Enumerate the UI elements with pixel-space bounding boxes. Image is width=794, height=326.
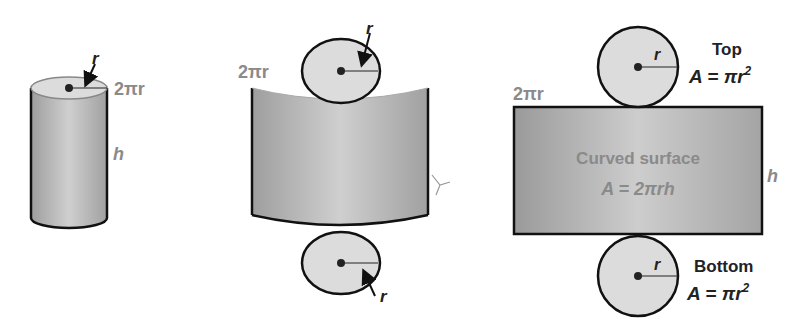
net-top-radius-label: r [654,46,661,63]
cylinder-figure: r 2πr h [31,49,145,228]
cylinder-surface-area-diagram: r 2πr h r 2πr r Curved surface A = 2πrh … [0,0,794,326]
unrolled-bottom-radius-label: r [380,287,388,306]
bottom-area-formula: A = πr2 [686,281,750,304]
curved-surface-rectangle [514,107,762,234]
net-figure: Curved surface A = 2πrh 2πr h r Top A = … [513,27,778,316]
unrolled-top-radius-label: r [366,19,374,38]
cylinder-radius-label: r [92,49,100,68]
unrolling-figure: r 2πr r [238,19,450,306]
curved-surface-title: Curved surface [576,149,700,168]
net-bottom-radius-label: r [654,256,661,273]
net-height-label: h [767,166,778,186]
bottom-title: Bottom [694,257,753,276]
curved-surface-sheet [252,88,428,225]
unrolled-circumference-label: 2πr [238,62,269,82]
curved-surface-formula: A = 2πrh [600,179,675,199]
net-circumference-label: 2πr [513,84,544,104]
top-area-formula: A = πr2 [688,64,752,87]
tear-mark [432,175,450,195]
cylinder-circumference-label: 2πr [114,79,145,99]
top-title: Top [712,40,742,59]
cylinder-height-label: h [113,144,124,164]
